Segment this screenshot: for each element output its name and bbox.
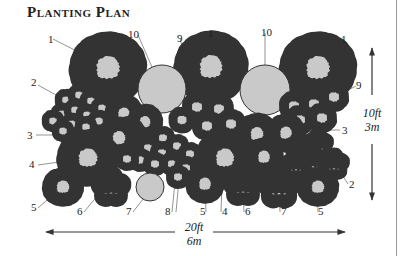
plant-5	[49, 174, 77, 201]
vertical-dimension: 10ft 3m	[363, 48, 382, 200]
label-3: 3	[27, 129, 33, 141]
height-ft: 10ft	[363, 106, 382, 120]
label-5: 5	[318, 205, 324, 217]
label-1: 1	[48, 33, 54, 45]
plants	[46, 42, 345, 201]
width-ft: 20ft	[185, 220, 204, 234]
label-2: 2	[349, 178, 355, 190]
label-2: 2	[31, 76, 37, 88]
label-10: 10	[261, 26, 273, 38]
plant-5	[304, 174, 332, 201]
label-1: 1	[208, 27, 214, 39]
label-4: 4	[222, 205, 228, 217]
label-4: 4	[29, 158, 35, 170]
label-6: 6	[245, 205, 251, 217]
label-5: 5	[200, 205, 206, 217]
label-7: 7	[281, 205, 287, 217]
label-5: 5	[31, 201, 37, 213]
width-m: 6m	[187, 234, 202, 248]
plant-1	[82, 43, 135, 92]
label-9: 9	[177, 32, 183, 44]
label-8: 8	[165, 205, 171, 217]
label-10: 10	[128, 28, 140, 40]
label-1: 1	[341, 33, 347, 45]
plant-7	[265, 172, 294, 201]
height-m: 3m	[364, 120, 380, 134]
plant-7	[136, 173, 164, 201]
label-3: 3	[342, 124, 348, 136]
label-7: 7	[126, 205, 132, 217]
planting-plan-diagram: 1 10 9 1 10 1 2 9 3 3 4 2 5 6 7 8 5 4 6 …	[0, 0, 407, 256]
label-6: 6	[77, 205, 83, 217]
plant-1	[186, 42, 237, 91]
label-9: 9	[356, 79, 362, 91]
plant-5	[192, 171, 218, 198]
horizontal-dimension: 20ft 6m	[46, 220, 345, 248]
